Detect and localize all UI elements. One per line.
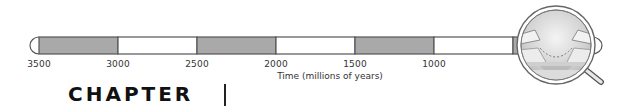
bar-left-cap [30,37,39,54]
axis-title: Time (millions of years) [277,71,383,81]
magnifier-handle-icon [586,70,601,82]
tick-label-2500: 2500 [185,59,209,69]
chapter-heading: CHAPTER [68,83,193,105]
tick-label-1000: 1000 [422,59,446,69]
tick-label-3000: 3000 [106,59,130,69]
geologic-timeline: 3500 3000 2500 2000 1500 1000 Time (mill… [0,0,634,106]
magnifying-glass-icon [517,6,595,84]
tick-label-2000: 2000 [264,59,288,69]
tick-label-3500: 3500 [27,59,51,69]
chapter-divider [224,84,226,106]
tick-label-1500: 1500 [343,59,367,69]
